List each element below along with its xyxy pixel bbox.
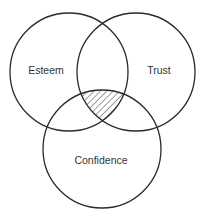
trust-label: Trust xyxy=(147,64,171,76)
esteem-label: Esteem xyxy=(28,64,64,76)
trust-circle xyxy=(77,13,195,131)
confidence-label: Confidence xyxy=(74,154,127,166)
venn-svg: Esteem Trust Confidence xyxy=(0,0,206,217)
venn-diagram: Esteem Trust Confidence xyxy=(0,0,206,217)
